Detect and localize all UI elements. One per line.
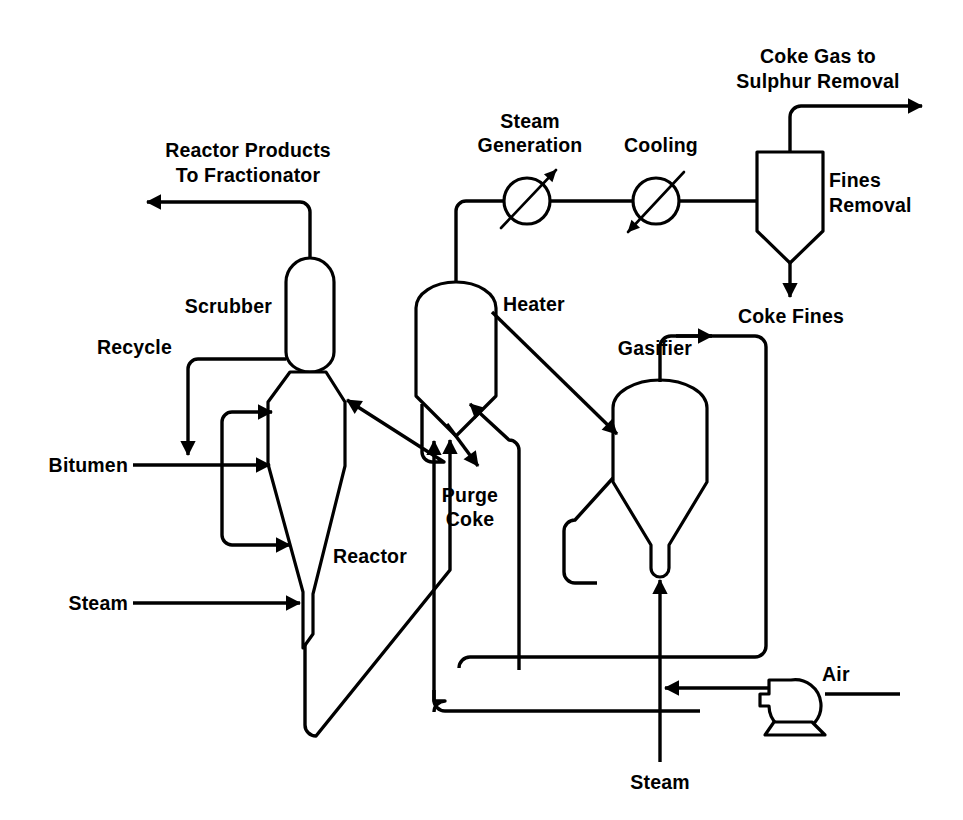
cooling-label: Cooling [624, 134, 698, 156]
heater-label: Heater [503, 293, 565, 315]
recycle-label: Recycle [97, 336, 172, 358]
fines-removal-label-line2: Removal [829, 194, 912, 216]
reactor-vessel [268, 372, 345, 648]
gasifier-overhead-line [459, 336, 766, 668]
bitumen-upper-branch-line [222, 412, 272, 465]
gasifier-to-heater-return-line [470, 404, 519, 670]
heater-overhead-line [456, 201, 504, 283]
gasifier-drain-line [564, 478, 613, 583]
process-flow-diagram: Reactor Products To Fractionator Scrubbe… [0, 0, 963, 820]
fines-removal-vessel [757, 152, 823, 263]
steam-reactor-label: Steam [68, 592, 128, 614]
purge-coke-label-line2: Coke [446, 508, 494, 530]
coke-gas-line [790, 106, 922, 152]
fines-removal-label-line1: Fines [829, 169, 881, 191]
heater-vessel [416, 282, 496, 436]
pfd-canvas: Reactor Products To Fractionator Scrubbe… [0, 0, 963, 820]
bitumen-label: Bitumen [49, 454, 128, 476]
reactor-products-label-line1: Reactor Products [165, 139, 331, 161]
air-label: Air [822, 663, 850, 685]
coke-gas-label-line2: Sulphur Removal [736, 70, 899, 92]
steam-gasifier-label: Steam [630, 771, 690, 793]
purge-coke-label-line1: Purge [442, 484, 498, 506]
scrubber-vessel [286, 258, 334, 372]
steam-generation-label-line1: Steam [500, 110, 560, 132]
gasifier-label: Gasifier [618, 337, 692, 359]
scrubber-label: Scrubber [185, 295, 272, 317]
reactor-products-label-line2: To Fractionator [176, 164, 321, 186]
gasifier-vessel [613, 380, 707, 577]
coke-gas-label-line1: Coke Gas to [760, 45, 876, 67]
air-blower-base [765, 722, 825, 735]
reactor-products-line [147, 202, 310, 258]
steam-generation-label-line2: Generation [478, 134, 583, 156]
reactor-label: Reactor [333, 545, 407, 567]
heater-to-gasifier-line [492, 312, 617, 434]
coke-fines-label: Coke Fines [738, 305, 844, 327]
